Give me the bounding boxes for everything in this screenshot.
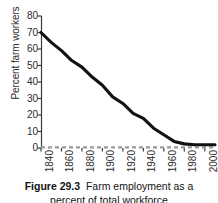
figure-number: Figure 29.3	[25, 180, 80, 192]
plot-area	[41, 16, 215, 148]
x-tick-label: 1880	[86, 150, 96, 172]
x-tick-label: 2000	[209, 150, 218, 172]
data-series-line	[41, 33, 215, 145]
y-tick-label: 80	[16, 11, 38, 21]
x-axis-tick-labels: 184018601880190019201940196019802000	[41, 150, 218, 178]
y-tick-label: 40	[16, 77, 38, 87]
y-tick-label: 0	[16, 143, 38, 153]
x-tick-label: 1920	[127, 150, 137, 172]
y-tick-label: 60	[16, 44, 38, 54]
figure-caption-text: Farm employment as a	[86, 180, 193, 192]
figure-caption-line2: percent of total workforce	[0, 194, 218, 203]
y-axis-tick-labels: 80706050403020100	[16, 10, 38, 154]
y-tick-label: 10	[16, 127, 38, 137]
x-tick-label: 1980	[188, 150, 198, 172]
x-tick-label: 1840	[45, 150, 55, 172]
y-tick-label: 50	[16, 61, 38, 71]
y-tick-label: 70	[16, 28, 38, 38]
x-tick-label: 1960	[168, 150, 178, 172]
x-tick-label: 1900	[106, 150, 116, 172]
y-tick-label: 20	[16, 110, 38, 120]
x-tick-label: 1940	[147, 150, 157, 172]
figure-caption: Figure 29.3 Farm employment as a	[0, 180, 218, 193]
figure-container: Percent farm workers 80706050403020100 1…	[0, 0, 218, 203]
chart-svg	[41, 16, 215, 148]
x-tick-label: 1860	[65, 150, 75, 172]
y-tick-label: 30	[16, 94, 38, 104]
